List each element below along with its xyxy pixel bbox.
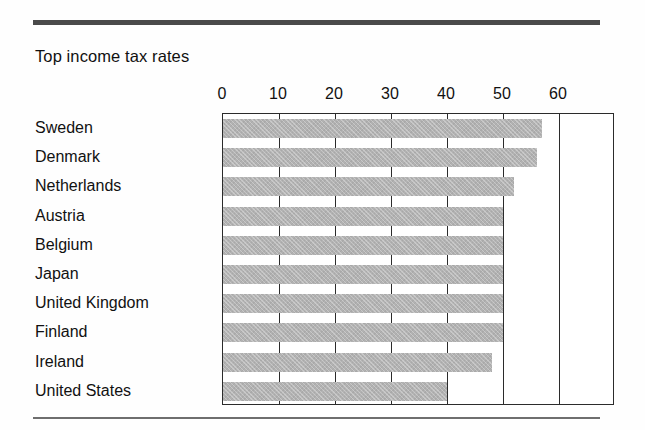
chart-title: Top income tax rates: [35, 47, 189, 66]
category-label-ireland: Ireland: [35, 347, 84, 376]
x-tick-label-40: 40: [437, 85, 455, 103]
chart-figure: Top income tax rates 0102030405060 Swede…: [0, 0, 645, 430]
bar-row: [223, 260, 615, 289]
category-label-belgium: Belgium: [35, 230, 93, 259]
category-label-finland: Finland: [35, 317, 87, 346]
x-axis-tick-labels: 0102030405060: [222, 85, 614, 107]
category-label-japan: Japan: [35, 259, 79, 288]
bar-row: [223, 348, 615, 377]
bar-denmark: [223, 148, 537, 167]
bar-sweden: [223, 119, 542, 138]
bar-row: [223, 172, 615, 201]
category-label-united-states: United States: [35, 376, 131, 405]
bar-row: [223, 231, 615, 260]
category-label-denmark: Denmark: [35, 142, 100, 171]
bar-row: [223, 377, 615, 406]
plot-area: [222, 113, 614, 405]
x-tick-label-20: 20: [325, 85, 343, 103]
bottom-rule: [33, 417, 600, 419]
x-tick-label-60: 60: [549, 85, 567, 103]
category-label-united-kingdom: United Kingdom: [35, 288, 149, 317]
bar-row: [223, 143, 615, 172]
bar-belgium: [223, 236, 503, 255]
bar-netherlands: [223, 177, 514, 196]
x-tick-label-30: 30: [381, 85, 399, 103]
x-tick-label-0: 0: [218, 85, 227, 103]
top-rule: [33, 20, 600, 25]
bar-united-states: [223, 382, 447, 401]
category-labels: SwedenDenmarkNetherlandsAustriaBelgiumJa…: [35, 113, 217, 405]
category-label-netherlands: Netherlands: [35, 171, 121, 200]
category-label-sweden: Sweden: [35, 113, 93, 142]
bar-ireland: [223, 353, 492, 372]
bar-row: [223, 202, 615, 231]
category-label-austria: Austria: [35, 201, 85, 230]
bar-row: [223, 289, 615, 318]
bar-austria: [223, 207, 503, 226]
x-tick-label-50: 50: [493, 85, 511, 103]
bar-row: [223, 318, 615, 347]
x-tick-label-10: 10: [269, 85, 287, 103]
bar-japan: [223, 265, 503, 284]
bar-finland: [223, 323, 503, 342]
bar-united-kingdom: [223, 294, 503, 313]
bar-row: [223, 114, 615, 143]
